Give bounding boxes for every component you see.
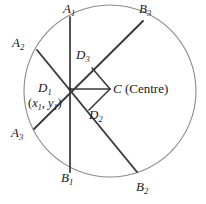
point-label-a1: A1 — [63, 2, 75, 15]
segment-d3-c — [92, 68, 110, 89]
centre-annotation: (Centre) — [125, 81, 168, 96]
point-label-d2: D2 — [89, 108, 103, 121]
point-label-b1: B1 — [61, 171, 73, 184]
geometry-figure: A1 B3 A2 D3 D1 D2 A3 B1 B2 C (Centre) (x… — [0, 0, 206, 204]
vertex-d1 — [68, 87, 71, 90]
point-label-b2: B2 — [136, 180, 148, 193]
point-label-d1: D1 — [38, 81, 52, 94]
point-label-a3: A3 — [11, 126, 23, 139]
point-label-d3: D3 — [76, 48, 90, 61]
point-label-b3: B3 — [139, 2, 151, 15]
centre-label: C (Centre) — [113, 82, 168, 95]
point-label-a2: A2 — [12, 36, 24, 49]
coordinate-label-d1: (x1, y1) — [28, 97, 62, 110]
centre-point-letter: C — [113, 81, 122, 96]
